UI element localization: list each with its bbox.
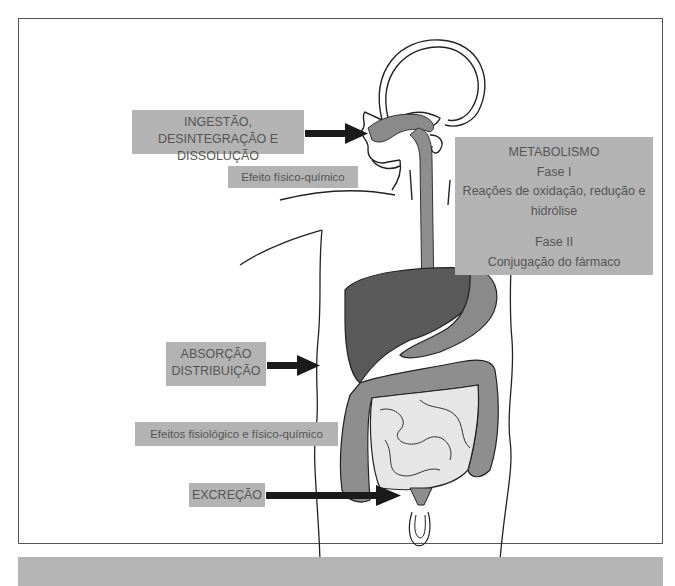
ingestion-label-line2: DISSOLUÇÃO xyxy=(132,148,304,165)
ingestion-label-line1: INGESTÃO, DESINTEGRAÇÃO E xyxy=(132,114,304,148)
absorption-label: ABSORÇÃO DISTRIBUIÇÃO xyxy=(166,342,266,386)
phase1-title: Fase I xyxy=(455,163,653,183)
absorption-effect-text: Efeitos fisiológico e físico-químico xyxy=(150,428,323,440)
small-intestine-icon xyxy=(370,385,478,490)
arrow-ingestion-icon xyxy=(305,123,368,144)
absorption-effect-label: Efeitos fisiológico e físico-químico xyxy=(135,422,338,446)
phase2-title: Fase II xyxy=(455,233,653,253)
anatomy-illustration xyxy=(0,0,675,586)
absorption-label-line1: ABSORÇÃO xyxy=(166,346,266,363)
metabolism-title: METABOLISMO xyxy=(455,143,653,163)
ingestion-label: INGESTÃO, DESINTEGRAÇÃO E DISSOLUÇÃO xyxy=(132,110,304,154)
caption-bar xyxy=(18,557,663,586)
genitals-outline-icon xyxy=(409,512,430,546)
excretion-text: EXCREÇÃO xyxy=(192,488,262,502)
phase1-line1: Reações de oxidação, redução e xyxy=(455,182,653,202)
phase2-desc: Conjugação do fármaco xyxy=(455,253,653,273)
ingestion-effect-text: Efeito físico-químico xyxy=(241,171,345,183)
absorption-label-line2: DISTRIBUIÇÃO xyxy=(166,363,266,380)
metabolism-label: METABOLISMO Fase I Reações de oxidação, … xyxy=(455,137,653,275)
excretion-label: EXCREÇÃO xyxy=(189,483,265,507)
phase1-line2: hidrólise xyxy=(455,202,653,222)
arrow-excretion-icon xyxy=(266,485,401,506)
rectum-icon xyxy=(410,488,432,505)
arrow-absorption-icon xyxy=(267,355,320,376)
ingestion-effect-label: Efeito físico-químico xyxy=(228,166,358,188)
